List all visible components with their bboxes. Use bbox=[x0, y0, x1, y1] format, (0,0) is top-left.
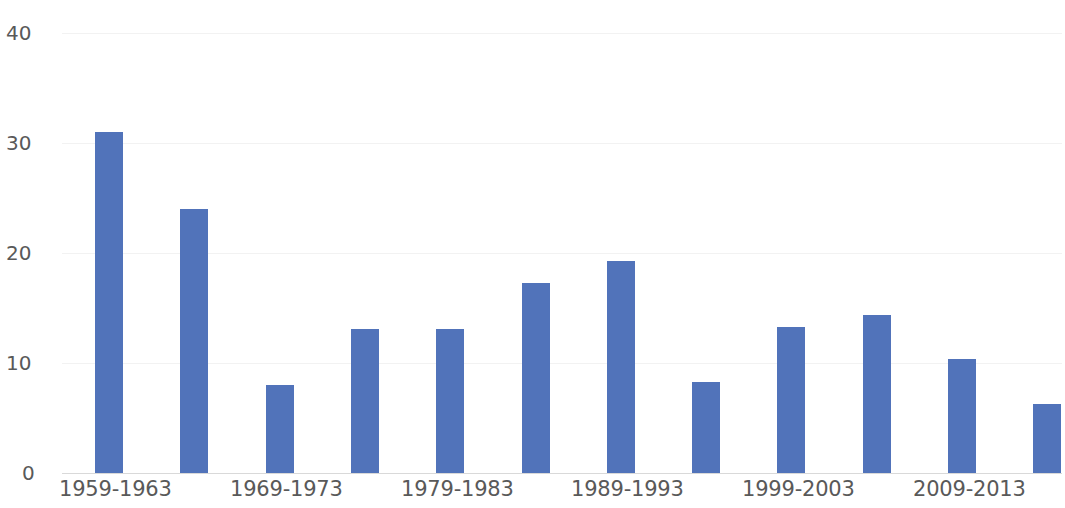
gridline-40 bbox=[62, 33, 1062, 34]
gridline-30 bbox=[62, 143, 1062, 144]
y-tick-label-30: 30 bbox=[6, 133, 50, 153]
bar-1964-1968 bbox=[180, 209, 208, 473]
axis-baseline bbox=[62, 473, 1062, 474]
bar-1989-1993 bbox=[607, 261, 635, 473]
bar-2014-2018 bbox=[1033, 404, 1061, 473]
plot-area: 40 30 20 10 0 1959-1963 1969-1973 1979-1… bbox=[0, 0, 1065, 508]
gridline-20 bbox=[62, 253, 1062, 254]
bar-1974-1978 bbox=[351, 329, 379, 473]
x-tick-label-1999-2003: 1999-2003 bbox=[742, 479, 855, 500]
bar-1999-2003 bbox=[777, 327, 805, 473]
bar-2004-2008 bbox=[863, 315, 891, 473]
bar-chart: 40 30 20 10 0 1959-1963 1969-1973 1979-1… bbox=[0, 0, 1065, 508]
y-tick-label-10: 10 bbox=[6, 353, 50, 373]
x-tick-label-2009-2013: 2009-2013 bbox=[913, 479, 1026, 500]
bar-1969-1973 bbox=[266, 385, 294, 473]
bar-2009-2013 bbox=[948, 359, 976, 473]
bar-1959-1963 bbox=[95, 132, 123, 473]
x-tick-label-1969-1973: 1969-1973 bbox=[230, 479, 343, 500]
y-tick-label-40: 40 bbox=[6, 23, 50, 43]
x-tick-label-1989-1993: 1989-1993 bbox=[571, 479, 684, 500]
y-tick-label-20: 20 bbox=[6, 243, 50, 263]
bar-1994-1998 bbox=[692, 382, 720, 473]
x-tick-label-1959-1963: 1959-1963 bbox=[59, 479, 172, 500]
x-tick-label-1979-1983: 1979-1983 bbox=[401, 479, 514, 500]
bar-1984-1988 bbox=[522, 283, 550, 473]
gridline-10 bbox=[62, 363, 1062, 364]
bar-1979-1983 bbox=[436, 329, 464, 473]
